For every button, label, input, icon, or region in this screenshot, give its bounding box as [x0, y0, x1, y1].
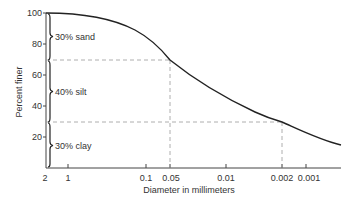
clay-label: 30% clay: [55, 141, 92, 151]
x-tick-2: 2: [42, 173, 47, 183]
x-tick-0.002: 0.002: [271, 173, 294, 183]
x-tick-0.01: 0.01: [217, 173, 235, 183]
x-tick-1: 1: [65, 173, 70, 183]
y-tick-100: 100: [27, 8, 42, 18]
y-tick-20: 20: [32, 132, 42, 142]
sand-label: 30% sand: [55, 32, 95, 42]
x-ticks: [68, 164, 306, 168]
x-tick-0.1: 0.1: [140, 173, 153, 183]
y-tick-40: 40: [32, 101, 42, 111]
y-tick-60: 60: [32, 70, 42, 80]
x-axis-title: Diameter in millimeters: [143, 185, 235, 195]
braces: [48, 14, 53, 167]
reference-lines: [46, 60, 282, 168]
y-tick-80: 80: [32, 39, 42, 49]
y-axis-title: Percent finer: [14, 66, 24, 117]
x-tick-0.05: 0.05: [162, 173, 180, 183]
silt-label: 40% silt: [55, 87, 87, 97]
x-tick-0.001: 0.001: [298, 173, 321, 183]
grain-size-chart: 100 80 60 40 20 Percent finer 2 1 0.1 0.…: [0, 0, 363, 202]
